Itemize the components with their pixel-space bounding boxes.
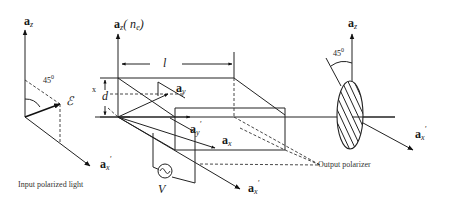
projection-dashed-3 (200, 164, 320, 165)
crystal-y-axis-label: ay (176, 81, 186, 96)
crystal-top-left-edge (118, 78, 175, 117)
projection-dashed-2 (285, 150, 320, 165)
projection-dashed-1 (234, 117, 320, 165)
crystal-top-right-edge (234, 78, 285, 115)
output-x-prime-axis-label: ax′ (415, 125, 427, 142)
input-x-prime-axis-arrow (25, 117, 90, 166)
output-z-axis-label: az (348, 16, 358, 31)
crystal-x-axis-label: ax (222, 133, 232, 148)
crystal-y-prime-axis-label: ay′ (190, 120, 202, 137)
input-field-label: ℰ (66, 94, 75, 108)
d-corner-dashed-line (108, 108, 118, 117)
length-label: l (163, 56, 167, 70)
output-angle-label: 450 (333, 47, 344, 58)
output-polarizer-group: az ax′ 450 Output polarizer (296, 16, 427, 169)
thickness-side-label: x (92, 85, 96, 94)
crystal-z-axis-label: az( ne) (114, 17, 144, 32)
input-polarization-group: az ax′ 450 ℰ Input polarized light (18, 14, 112, 189)
projection-dashed-4 (240, 128, 285, 150)
crystal-y-axis-arrow (118, 94, 168, 117)
crystal-x-prime-axis-label: ax′ (248, 179, 260, 196)
input-z-axis-label: az (24, 14, 34, 29)
electro-optic-modulator-diagram: az ax′ 450 ℰ Input polarized light az( n… (0, 0, 451, 210)
output-caption: Output polarizer (318, 160, 371, 169)
thickness-label: d (102, 89, 109, 103)
input-angle-label: 450 (43, 74, 54, 85)
input-angle-arc (25, 99, 40, 107)
input-x-prime-axis-label: ax′ (100, 155, 112, 172)
voltage-label: V (158, 182, 167, 196)
input-caption: Input polarized light (18, 180, 84, 189)
crystal-x-prime-axis-arrow (118, 117, 240, 189)
output-angle-arc (331, 62, 352, 66)
input-field-vector-arrow (25, 104, 60, 117)
